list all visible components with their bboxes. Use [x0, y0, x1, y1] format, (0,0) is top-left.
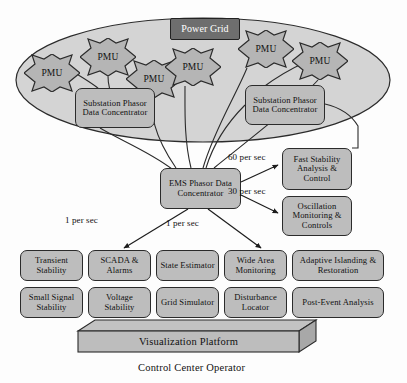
app-scada-alarms[interactable]: SCADA & Alarms	[88, 250, 151, 281]
diagram-canvas: Power Grid PMU PMU PMU PMU PMU PMU	[0, 0, 407, 383]
app-voltage-stability[interactable]: Voltage Stability	[88, 287, 151, 318]
flow-label-1-per-sec-right: 1 per sec	[166, 218, 199, 228]
app-state-estimator[interactable]: State Estimator	[156, 250, 219, 281]
oscillation-monitoring-box[interactable]: Oscillation Monitoring & Controls	[282, 196, 352, 236]
app-label: Wide Area Monitoring	[225, 256, 286, 274]
visualization-platform[interactable]: Visualization Platform	[78, 331, 299, 352]
substation-pdc-right-label: Substation Phasor Data Concentrator	[246, 96, 324, 114]
arrow-60-per-sec	[241, 165, 278, 182]
pmu-label: PMU	[143, 74, 164, 84]
app-wide-area-monitoring[interactable]: Wide Area Monitoring	[224, 250, 287, 281]
app-label: Small Signal Stability	[21, 293, 82, 311]
app-label: Adaptive Islanding & Restoration	[293, 256, 383, 274]
app-label: Grid Simulator	[159, 298, 216, 307]
flow-label-60-per-sec: 60 per sec	[228, 152, 265, 162]
pmu-label: PMU	[309, 56, 330, 66]
pmu-node-5[interactable]: PMU	[238, 30, 294, 68]
control-center-operator-caption: Control Center Operator	[138, 362, 245, 373]
app-label: Disturbance Locator	[225, 293, 286, 311]
visualization-platform-label: Visualization Platform	[78, 336, 299, 347]
app-post-event-analysis[interactable]: Post-Event Analysis	[292, 287, 384, 318]
app-label: Transient Stability	[21, 256, 82, 274]
app-adaptive-islanding[interactable]: Adaptive Islanding & Restoration	[292, 250, 384, 281]
arrow-1-per-sec-left	[124, 209, 188, 248]
arrow-30-per-sec	[241, 195, 278, 213]
substation-pdc-right-box[interactable]: Substation Phasor Data Concentrator	[245, 85, 325, 125]
pmu-label: PMU	[255, 44, 276, 54]
app-disturbance-locator[interactable]: Disturbance Locator	[224, 287, 287, 318]
app-label: State Estimator	[158, 261, 216, 270]
app-small-signal-stability[interactable]: Small Signal Stability	[20, 287, 83, 318]
app-transient-stability[interactable]: Transient Stability	[20, 250, 83, 281]
power-grid-box[interactable]: Power Grid	[170, 18, 240, 40]
flow-label-30-per-sec: 30 per sec	[228, 186, 265, 196]
pmu-node-1[interactable]: PMU	[24, 54, 80, 92]
app-label: SCADA & Alarms	[89, 256, 150, 274]
pmu-label: PMU	[97, 52, 118, 62]
substation-pdc-left-box[interactable]: Substation Phasor Data Concentrator	[75, 88, 155, 128]
pmu-label: PMU	[41, 68, 62, 78]
oscillation-monitoring-label: Oscillation Monitoring & Controls	[283, 202, 351, 229]
app-label: Voltage Stability	[89, 293, 150, 311]
flow-label-1-per-sec-left: 1 per sec	[65, 215, 98, 225]
arrow-1-per-sec-right	[208, 209, 261, 248]
substation-pdc-left-label: Substation Phasor Data Concentrator	[76, 99, 154, 117]
fast-stability-box[interactable]: Fast Stability Analysis & Control	[282, 148, 352, 190]
pmu-node-6[interactable]: PMU	[292, 42, 348, 80]
pmu-label: PMU	[182, 62, 203, 72]
power-grid-label: Power Grid	[179, 24, 230, 35]
app-label: Post-Event Analysis	[300, 298, 375, 307]
app-grid-simulator[interactable]: Grid Simulator	[156, 287, 219, 318]
fast-stability-label: Fast Stability Analysis & Control	[283, 155, 351, 182]
pmu-node-4[interactable]: PMU	[165, 48, 221, 86]
